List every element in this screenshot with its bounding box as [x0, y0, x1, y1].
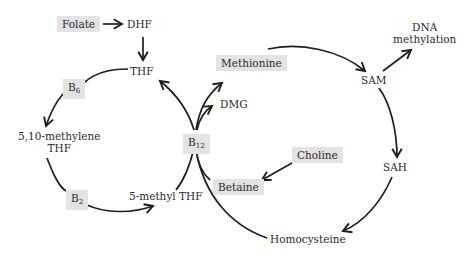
arc-methylene-b2 [47, 158, 66, 191]
node-b2: B2 [66, 190, 88, 210]
node-dhf: DHF [127, 18, 152, 30]
arrow-sam-sah [379, 88, 397, 157]
arrow-b6-methylene [46, 94, 63, 126]
node-dmg: DMG [220, 98, 248, 110]
node-5-methyl-thf: 5-methyl THF [129, 190, 202, 202]
methylene-line-2: THF [18, 142, 101, 154]
arrow-b12-methionine [196, 83, 222, 130]
node-betaine: Betaine [213, 179, 264, 195]
one-carbon-metabolism-diagram: Folate DHF THF B6 5,10-methylene THF B2 … [0, 0, 467, 259]
node-sam: SAM [361, 74, 387, 86]
arc-methylthf-b12 [176, 148, 194, 190]
b2-sub: 2 [79, 198, 83, 206]
node-choline: Choline [292, 147, 343, 163]
b12-base: B [188, 136, 196, 148]
dna-line-2: methylation [393, 33, 456, 45]
node-homocysteine: Homocysteine [270, 233, 346, 245]
node-sah: SAH [383, 161, 407, 173]
node-dna-methylation: DNA methylation [393, 21, 456, 45]
dna-line-1: DNA [393, 21, 456, 33]
arrow-sam-dna [383, 50, 411, 71]
node-folate: Folate [57, 16, 100, 32]
b6-base: B [68, 81, 76, 93]
b12-sub: 12 [196, 142, 205, 150]
arrow-b12-thf [160, 81, 194, 130]
arrow-b2-methylthf [87, 205, 153, 212]
node-methylene-thf: 5,10-methylene THF [18, 130, 101, 154]
node-methionine: Methionine [216, 55, 287, 71]
node-b12: B12 [183, 134, 210, 154]
methylene-line-1: 5,10-methylene [18, 130, 101, 142]
arrow-sah-homocysteine [343, 177, 392, 231]
b2-base: B [71, 192, 79, 204]
b6-sub: 6 [76, 87, 80, 95]
arrow-choline-betaine [262, 163, 292, 180]
arc-thf-b6 [85, 69, 128, 82]
node-thf: THF [130, 65, 153, 77]
node-b6: B6 [63, 79, 85, 99]
